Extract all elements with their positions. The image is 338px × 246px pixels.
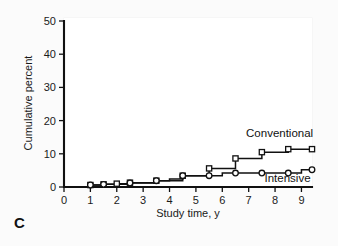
axes-group (64, 21, 312, 187)
tick-group (59, 21, 301, 192)
figure-panel-c: 010203040500123456789 ConventionalIntens… (0, 0, 338, 246)
marker-square (233, 156, 238, 161)
marker-circle (88, 182, 94, 188)
x-tick-label: 4 (166, 194, 172, 206)
x-tick-label: 8 (272, 194, 278, 206)
panel-label: C (14, 214, 25, 231)
y-tick-label: 20 (44, 115, 56, 127)
marker-square (207, 166, 212, 171)
marker-circle (101, 182, 107, 188)
y-tick-label: 30 (44, 81, 56, 93)
y-tick-label: 50 (44, 15, 56, 27)
x-tick-label: 6 (219, 194, 225, 206)
marker-square (259, 150, 264, 155)
y-tick-label: 0 (50, 181, 56, 193)
x-tick-label: 3 (140, 194, 146, 206)
series-annotation: Conventional (246, 127, 313, 139)
marker-circle (206, 173, 212, 179)
series-annotation: Intensive (265, 172, 311, 184)
marker-circle (180, 173, 186, 179)
y-axis-title: Cumulative percent (22, 56, 34, 151)
x-tick-label: 0 (61, 194, 67, 206)
axis-lines (64, 21, 312, 187)
x-tick-label: 1 (87, 194, 93, 206)
y-tick-label: 10 (44, 148, 56, 160)
marker-square (114, 181, 119, 186)
x-axis-title: Study time, y (156, 207, 220, 219)
y-tick-label: 40 (44, 48, 56, 60)
annotation-group: ConventionalIntensive (246, 127, 313, 183)
x-tick-label: 2 (114, 194, 120, 206)
x-tick-label: 9 (298, 194, 304, 206)
marker-circle (154, 178, 160, 184)
x-tick-label: 7 (246, 194, 252, 206)
marker-square (309, 147, 314, 152)
marker-square (286, 147, 291, 152)
marker-circle (127, 180, 133, 186)
x-tick-label: 5 (193, 194, 199, 206)
marker-circle (233, 170, 239, 176)
chart-svg: 010203040500123456789 ConventionalIntens… (0, 0, 338, 246)
